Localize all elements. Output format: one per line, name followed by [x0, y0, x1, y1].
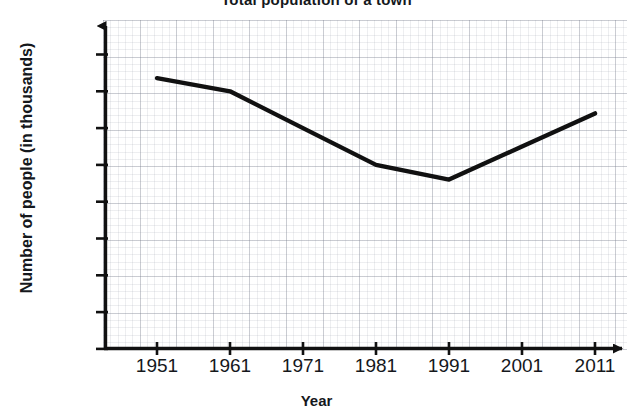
- chart-svg: [0, 0, 633, 416]
- line-chart: Total population of a town Number of peo…: [0, 0, 633, 416]
- data-series-line: [157, 78, 595, 180]
